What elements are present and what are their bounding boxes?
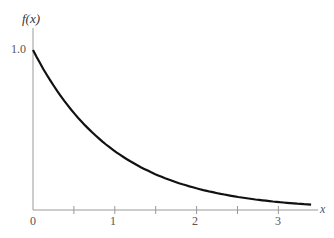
y-axis-label: f(x) <box>22 11 40 27</box>
decay-curve <box>33 50 311 205</box>
y-tick-label: 1.0 <box>11 42 26 57</box>
x-tick-label-1: 1 <box>110 214 116 229</box>
chart-plot-area <box>0 0 334 238</box>
x-axis-label: x <box>320 202 325 217</box>
x-tick-label-3: 3 <box>275 214 281 229</box>
x-tick-label-2: 2 <box>192 214 198 229</box>
x-tick-label-0: 0 <box>30 214 36 229</box>
